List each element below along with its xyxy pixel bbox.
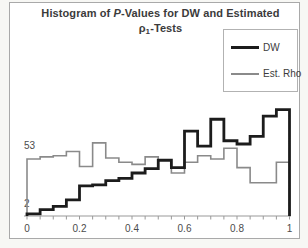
- est-rho-line-sample: [231, 73, 259, 75]
- x-tick-label-0.6: 0.6: [178, 223, 192, 234]
- x-tick-label-1: 1: [287, 223, 293, 234]
- dw-line-sample: [231, 46, 259, 49]
- x-tick-label-0.2: 0.2: [73, 223, 87, 234]
- legend-label-est-rho: Est. Rho: [263, 68, 301, 79]
- chart-title-line1: Histogram of P-Values for DW and Estimat…: [16, 6, 305, 21]
- figure-frame: 00.20.40.60.81 532 Histogram of P-Values…: [9, 2, 300, 239]
- x-tick-label-0.4: 0.4: [125, 223, 139, 234]
- annotation-53: 53: [24, 140, 36, 151]
- x-tick-label-0.8: 0.8: [230, 223, 244, 234]
- x-tick-label-0: 0: [24, 223, 30, 234]
- dw-series-line: [27, 110, 290, 216]
- x-axis-ticks: [27, 216, 290, 220]
- bin-count-annotations: 532: [24, 140, 36, 209]
- legend-box: DW Est. Rho: [223, 29, 298, 92]
- legend-item-est-rho: Est. Rho: [224, 68, 297, 79]
- x-axis-tick-labels: 00.20.40.60.81: [24, 223, 293, 234]
- legend-label-dw: DW: [263, 42, 280, 53]
- legend-item-dw: DW: [224, 42, 297, 53]
